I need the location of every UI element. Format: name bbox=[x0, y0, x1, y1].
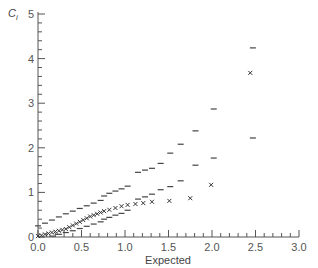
x-marker bbox=[107, 208, 111, 212]
x-marker bbox=[141, 201, 145, 205]
x-marker bbox=[57, 229, 61, 233]
y-tick-label: 1 bbox=[28, 186, 34, 198]
axes: 0123450.00.51.01.52.02.53.0 bbox=[28, 8, 307, 253]
x-tick-label: 2.0 bbox=[204, 241, 219, 253]
y-tick-label: 5 bbox=[28, 8, 34, 20]
x-marker bbox=[120, 204, 124, 208]
x-marker bbox=[95, 212, 99, 216]
x-marker bbox=[99, 210, 103, 214]
x-marker bbox=[209, 183, 213, 187]
x-marker bbox=[60, 228, 64, 232]
x-marker bbox=[167, 199, 171, 203]
x-tick-label: 2.5 bbox=[248, 241, 263, 253]
x-marker bbox=[92, 213, 96, 217]
y-tick-label: 4 bbox=[28, 53, 34, 65]
x-marker bbox=[113, 206, 117, 210]
series-upper-bound bbox=[35, 48, 256, 226]
series-observed bbox=[36, 71, 252, 238]
x-axis-title: Expected bbox=[145, 254, 191, 266]
plot-area bbox=[35, 48, 256, 238]
x-tick-label: 3.0 bbox=[291, 241, 306, 253]
x-marker bbox=[102, 209, 106, 213]
x-marker bbox=[150, 200, 154, 204]
x-marker bbox=[133, 202, 137, 206]
x-tick-label: 0.5 bbox=[74, 241, 89, 253]
x-marker bbox=[126, 203, 130, 207]
chart: 0123450.00.51.01.52.02.53.0 Ci Expected bbox=[0, 0, 318, 268]
x-marker bbox=[248, 71, 252, 75]
y-axis-title: Ci bbox=[8, 7, 18, 22]
y-tick-label: 3 bbox=[28, 97, 34, 109]
x-tick-label: 0.0 bbox=[30, 241, 45, 253]
x-marker bbox=[188, 196, 192, 200]
y-tick-label: 2 bbox=[28, 142, 34, 154]
x-tick-label: 1.0 bbox=[117, 241, 132, 253]
x-tick-label: 1.5 bbox=[161, 241, 176, 253]
x-marker bbox=[50, 231, 54, 235]
